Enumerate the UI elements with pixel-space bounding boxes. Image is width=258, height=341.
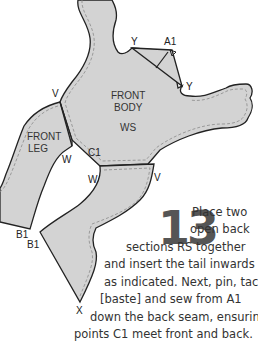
- instruction-line: Place two: [192, 204, 247, 222]
- point-label-y-right: Y: [186, 81, 193, 92]
- front-leg-piece: [0, 102, 72, 229]
- point-label-w-upper: W: [62, 154, 72, 165]
- point-label-v-right: V: [154, 172, 161, 183]
- point-label-x: X: [76, 305, 83, 316]
- instruction-line: and insert the tail inwards: [104, 256, 255, 274]
- instruction-line: [baste] and sew from A1: [100, 291, 242, 309]
- front-leg-label-line1: FRONT: [27, 131, 61, 142]
- instruction-line: down the back seam, ensuring: [90, 309, 258, 327]
- front-body-ws-label: WS: [120, 122, 136, 133]
- instruction-line: as indicated. Next, pin, tack: [104, 274, 258, 292]
- front-body-label-line1: FRONT: [111, 90, 145, 101]
- point-label-w-lower: W: [88, 174, 98, 185]
- front-body-piece: [60, 0, 252, 166]
- point-label-a1: A1: [164, 36, 177, 47]
- point-label-y-top: Y: [131, 36, 138, 47]
- front-leg-label-line2: LEG: [28, 143, 48, 154]
- instruction-line: sections RS together: [126, 239, 246, 257]
- front-body-label-line2: BODY: [114, 102, 143, 113]
- point-label-b1-right: B1: [27, 239, 40, 250]
- instruction-line: points C1 meet front and back.: [74, 326, 253, 341]
- point-label-c1: C1: [88, 147, 101, 158]
- instruction-line: open back: [190, 221, 250, 239]
- point-label-v-left: V: [52, 88, 59, 99]
